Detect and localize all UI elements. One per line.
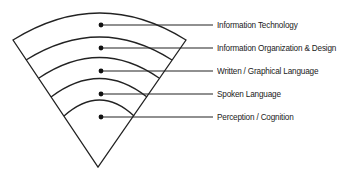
arc-3 [39, 58, 159, 79]
dot-marker-1 [99, 23, 104, 28]
layer-label-written-graphical-language: Written / Graphical Language [217, 65, 318, 77]
layer-label-information-organization-design: Information Organization & Design [217, 42, 336, 54]
layer-label-spoken-language: Spoken Language [217, 88, 281, 100]
arc-5 [64, 100, 134, 116]
wedge-outline [13, 13, 186, 167]
dot-marker-3 [99, 69, 104, 74]
dot-marker-4 [99, 92, 104, 97]
layer-label-perception-cognition: Perception / Cognition [217, 111, 294, 123]
dot-marker-2 [99, 46, 104, 51]
layer-label-information-technology: Information Technology [217, 19, 298, 31]
dot-marker-5 [99, 115, 104, 120]
layered-fan-diagram [0, 0, 353, 174]
